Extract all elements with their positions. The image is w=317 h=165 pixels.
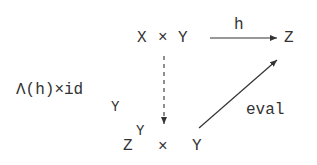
times-symbol-bottom: × (158, 139, 168, 155)
label-eval: eval (246, 102, 284, 118)
node-z-base: Z (123, 138, 133, 154)
node-y-bottom: Y (192, 138, 202, 154)
node-y: Y (178, 30, 188, 46)
times-symbol: × (158, 30, 168, 46)
label-h: h (234, 17, 244, 33)
node-z-exponent: Y (136, 124, 144, 138)
label-curry-subscript: Y (111, 100, 119, 114)
commutative-diagram: X × Y Z h Λ(h)×id Y eval Z Y × Y (0, 0, 317, 165)
node-z: Z (284, 30, 294, 46)
node-x: X (137, 30, 147, 46)
label-curry: Λ(h)×id (16, 82, 83, 98)
